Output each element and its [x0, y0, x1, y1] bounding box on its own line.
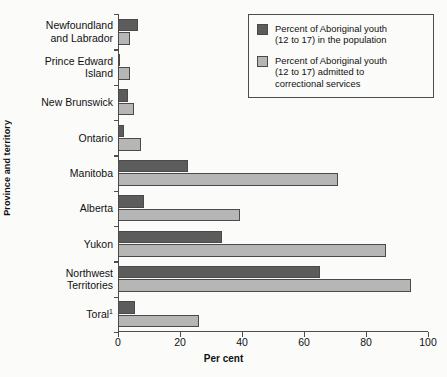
x-axis-tick-label: 100	[419, 336, 437, 348]
x-axis-title: Per cent	[0, 353, 447, 364]
bar	[118, 244, 386, 257]
bar	[118, 231, 222, 244]
category-label: Manitoba	[10, 167, 113, 179]
category-label: Newfoundlandand Labrador	[10, 19, 113, 43]
legend-label: Percent of Aboriginal youth(12 to 17) in…	[275, 23, 387, 46]
legend-label: Percent of Aboriginal youth(12 to 17) ad…	[275, 55, 387, 89]
bar-group	[118, 226, 428, 261]
category-label: Yukon	[10, 238, 113, 250]
category-label: Toral1	[10, 308, 113, 320]
category-label: Alberta	[10, 202, 113, 214]
bar	[118, 32, 130, 45]
legend-item: Percent of Aboriginal youth(12 to 17) in…	[257, 23, 424, 46]
legend-item: Percent of Aboriginal youth(12 to 17) ad…	[257, 55, 424, 89]
x-axis-tick-label: 20	[174, 336, 186, 348]
x-axis-tick-label: 0	[115, 336, 121, 348]
category-label-column: Newfoundlandand LabradorPrince EdwardIsl…	[10, 14, 113, 332]
bar	[118, 89, 128, 102]
bar	[118, 54, 120, 67]
bar-group	[118, 155, 428, 190]
legend-swatch-icon	[257, 56, 268, 67]
legend: Percent of Aboriginal youth(12 to 17) in…	[248, 14, 434, 98]
bar	[118, 138, 141, 151]
bar-chart: Province and territory Newfoundlandand L…	[0, 0, 447, 377]
x-axis-tick-label: 80	[360, 336, 372, 348]
bar	[118, 160, 188, 173]
bar-group	[118, 297, 428, 332]
legend-swatch-icon	[257, 24, 268, 35]
bar	[118, 67, 130, 80]
category-label: New Brunswick	[10, 96, 113, 108]
x-axis-tick-label: 40	[236, 336, 248, 348]
bar	[118, 19, 138, 32]
bar	[118, 279, 411, 292]
bar	[118, 173, 338, 186]
category-label: Prince EdwardIsland	[10, 55, 113, 79]
bar-group	[118, 261, 428, 296]
bar	[118, 301, 135, 314]
bar	[118, 266, 320, 279]
bar-group	[118, 120, 428, 155]
bar	[118, 103, 134, 116]
category-label: NorthwestTerritories	[10, 267, 113, 291]
y-axis-tick	[114, 14, 119, 15]
bar	[118, 125, 124, 138]
bar-group	[118, 191, 428, 226]
category-label: Ontario	[10, 132, 113, 144]
x-axis-tick-label: 60	[298, 336, 310, 348]
bar	[118, 315, 199, 328]
bar	[118, 209, 240, 222]
bar	[118, 195, 144, 208]
